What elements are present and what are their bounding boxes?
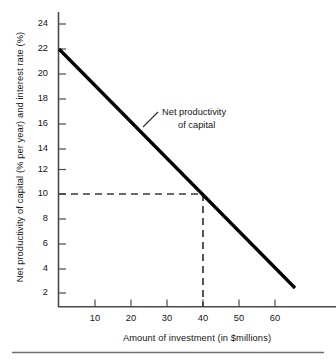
x-tick-label-30: 30 [152, 313, 182, 323]
x-tick-marks [95, 300, 275, 307]
net-productivity-annotation: Net productivity of capital [162, 106, 226, 131]
annotation-leader-line [143, 112, 158, 127]
net-productivity-curve [59, 49, 295, 288]
x-tick-label-20: 20 [116, 313, 146, 323]
y-tick-marks [59, 24, 67, 293]
x-tick-label-10: 10 [80, 313, 110, 323]
x-tick-label-50: 50 [224, 313, 254, 323]
x-axis-title: Amount of investment (in $millions) [58, 333, 336, 343]
x-tick-label-40: 40 [188, 313, 218, 323]
y-axis-title: Net productivity of capital (% per year)… [15, 0, 25, 317]
x-tick-label-60: 60 [260, 313, 290, 323]
chart-canvas [0, 0, 336, 360]
annotation-line-1: Net productivity [162, 107, 226, 117]
annotation-line-2: of capital [162, 119, 226, 132]
chart-figure: 24 22 20 18 16 14 12 10 8 6 4 2 10 20 30… [0, 0, 336, 360]
